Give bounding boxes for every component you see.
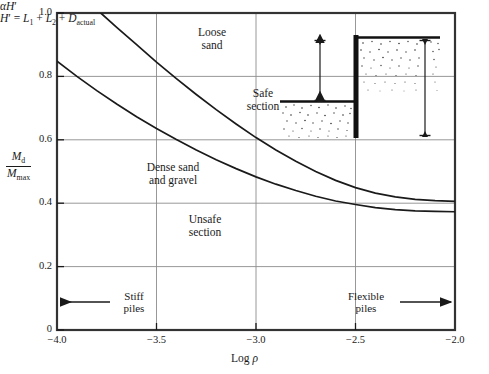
safe-section-label: Safe section [232, 87, 294, 113]
loose-sand-label: Loose sand [181, 26, 243, 52]
unsafe-section-label-line2: section [189, 226, 222, 238]
y-tick-label-0: 0 [12, 323, 52, 334]
x-tick-label--2.0: −2.0 [425, 334, 485, 345]
dense-sand-label-line2: and gravel [149, 174, 197, 186]
x-tick-label--3.0: −3.0 [226, 334, 286, 345]
chart-figure: 1.0 0.8 0.6 0.4 0.2 0 −4.0 −3.5 −3.0 −2.… [0, 0, 489, 374]
chart-svg [0, 0, 489, 374]
y-tick-label-0.4: 0.4 [12, 196, 52, 207]
dense-sand-label-line1: Dense sand [147, 161, 200, 173]
grid-lines [57, 13, 455, 330]
dense-sand-label: Dense sand and gravel [121, 161, 225, 187]
x-axis-title: Log ρ [0, 352, 489, 364]
y-axis-title: Md Mmax [6, 150, 31, 182]
x-axis-title-symbol: ρ [252, 352, 258, 364]
stiff-piles-label: Stiff piles [110, 290, 158, 315]
loose-sand-label-line2: sand [201, 39, 222, 51]
x-tick-label--3.5: −3.5 [127, 334, 187, 345]
flexible-piles-label-line1: Flexible [348, 290, 384, 302]
x-tick-label--4.0: −4.0 [27, 334, 87, 345]
x-axis-title-prefix: Log [231, 352, 252, 364]
loose-sand-label-line1: Loose [198, 26, 226, 38]
y-axis-numerator: Md [6, 150, 31, 167]
x-tick-label--2.5: −2.5 [326, 334, 386, 345]
inset-sheet-pile-wall [354, 35, 359, 138]
safe-section-label-line2: section [247, 100, 280, 112]
stiff-piles-label-line2: piles [124, 302, 145, 314]
safe-section-label-line1: Safe [253, 87, 273, 99]
flexible-piles-label-line2: piles [356, 302, 377, 314]
stiff-piles-label-line1: Stiff [124, 290, 143, 302]
unsafe-section-label-line1: Unsafe [189, 213, 222, 225]
y-tick-label-0.2: 0.2 [12, 260, 52, 271]
y-tick-label-0.6: 0.6 [12, 133, 52, 144]
flexible-piles-label: Flexible piles [333, 290, 399, 315]
inset-sheet-pile-diagram [280, 35, 440, 138]
unsafe-section-label: Unsafe section [172, 213, 238, 239]
inset-soil-stipple-backfill [360, 41, 439, 92]
y-tick-label-0.8: 0.8 [12, 69, 52, 80]
y-axis-denominator: Mmax [6, 167, 31, 183]
y-tick-label-1.0: 1.0 [12, 6, 52, 17]
